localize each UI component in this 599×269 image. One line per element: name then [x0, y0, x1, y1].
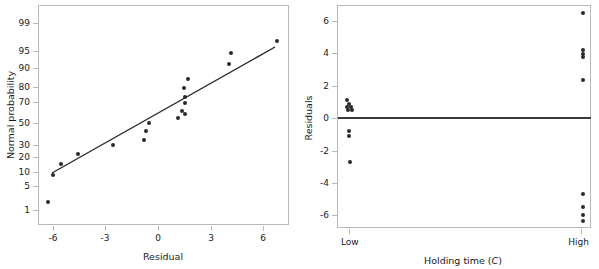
left-data-point — [183, 112, 187, 116]
right-data-point-high — [581, 213, 585, 217]
left-data-point — [51, 173, 55, 177]
left-data-point — [229, 51, 233, 55]
right-xtick-label: High — [563, 238, 589, 247]
left-reference-line — [0, 0, 300, 269]
left-data-point — [227, 62, 231, 66]
right-ytick-mark — [332, 215, 337, 216]
left-data-point — [46, 200, 50, 204]
right-ytick-mark — [332, 53, 337, 54]
left-data-point — [76, 152, 80, 156]
right-ytick-label: 6 — [306, 17, 329, 26]
left-data-point — [180, 109, 184, 113]
right-ytick-label: 4 — [306, 49, 329, 58]
right-data-point-high — [581, 219, 585, 223]
left-data-point — [144, 129, 148, 133]
right-data-point-low — [347, 134, 351, 138]
right-ytick-mark — [332, 86, 337, 87]
left-data-point — [183, 101, 187, 105]
right-xtick-mark — [349, 229, 350, 234]
right-xtick-label: Low — [341, 238, 359, 247]
right-zero-reference-line — [338, 117, 591, 119]
left-data-point — [182, 86, 186, 90]
residuals-panel: 6 4 2 0 -2 -4 -6 Low High Holding time (… — [300, 0, 599, 269]
right-yaxis-title: Residuals — [304, 95, 314, 140]
right-xaxis-title-suffix: ) — [498, 255, 502, 266]
right-data-point-high — [581, 78, 585, 82]
left-data-point — [176, 116, 180, 120]
right-data-point-high — [581, 55, 585, 59]
right-xaxis-title-prefix: Holding time ( — [424, 255, 492, 266]
right-data-point-low — [347, 129, 351, 133]
right-data-point-low — [350, 108, 354, 112]
left-data-point — [142, 138, 146, 142]
right-data-point-high — [581, 11, 585, 15]
left-data-point — [186, 77, 190, 81]
right-ytick-mark — [332, 151, 337, 152]
right-ytick-mark — [332, 118, 337, 119]
right-ytick-mark — [332, 21, 337, 22]
left-data-point — [59, 162, 63, 166]
right-ytick-mark — [332, 183, 337, 184]
right-xaxis-title: Holding time (C) — [424, 256, 502, 266]
right-data-point-high — [581, 205, 585, 209]
normal-probability-panel: 99 95 90 80 70 50 30 20 10 5 1 -6 -3 0 3… — [0, 0, 300, 269]
figure-two-residual-plots: 99 95 90 80 70 50 30 20 10 5 1 -6 -3 0 3… — [0, 0, 599, 269]
right-data-point-high — [581, 192, 585, 196]
right-ytick-label: -6 — [306, 211, 329, 220]
right-ytick-label: -4 — [306, 179, 329, 188]
left-data-point — [111, 143, 115, 147]
left-data-point — [183, 95, 187, 99]
right-ytick-label: 2 — [306, 82, 329, 91]
right-xtick-mark — [581, 229, 582, 234]
left-data-point — [147, 121, 151, 125]
right-ytick-label: -2 — [306, 147, 329, 156]
right-data-point-low — [348, 160, 352, 164]
left-data-point — [275, 39, 279, 43]
